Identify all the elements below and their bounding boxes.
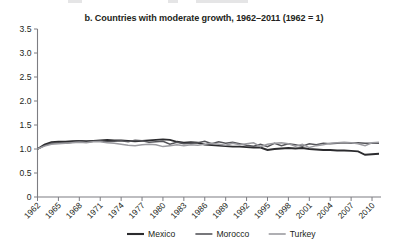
legend-label-mexico: Mexico xyxy=(148,229,175,239)
x-axis-tick-label: 1986 xyxy=(189,200,209,220)
x-axis-tick-label: 2004 xyxy=(315,200,335,220)
chart-plot-area: 00.51.01.52.02.53.03.5 19621965196819711… xyxy=(0,0,408,250)
series-lines xyxy=(38,139,380,154)
x-axis: 1962196519681971197419771980198319861989… xyxy=(22,197,381,221)
x-axis-tick-label: 2007 xyxy=(335,200,355,220)
x-axis-tick-label: 1968 xyxy=(64,200,84,220)
x-axis-tick-label: 2001 xyxy=(294,200,314,220)
chart-figure: b. Countries with moderate growth, 1962–… xyxy=(0,0,408,250)
y-axis-tick-label: 0.5 xyxy=(20,168,32,178)
y-axis-tick-label: 3.0 xyxy=(20,48,32,58)
y-axis-tick-label: 2.0 xyxy=(20,96,32,106)
x-axis-tick-label: 1989 xyxy=(210,200,230,220)
y-axis-tick-label: 1.5 xyxy=(20,120,32,130)
x-axis-tick-label: 1980 xyxy=(147,200,167,220)
x-axis-tick-label: 1977 xyxy=(126,200,146,220)
legend-label-morocco: Morocco xyxy=(216,229,249,239)
chart-legend: MexicoMoroccoTurkey xyxy=(127,229,316,239)
y-axis-tick-label: 1.0 xyxy=(20,144,32,154)
x-axis-tick-label: 1995 xyxy=(252,200,272,220)
y-axis-tick-label: 0 xyxy=(27,192,32,202)
x-axis-tick-label: 1992 xyxy=(231,200,251,220)
x-axis-tick-label: 1998 xyxy=(273,200,293,220)
x-axis-tick-label: 1965 xyxy=(43,200,63,220)
y-axis-tick-label: 3.5 xyxy=(20,24,32,34)
y-axis: 00.51.01.52.02.53.03.5 xyxy=(20,24,38,202)
x-axis-tick-label: 2010 xyxy=(356,200,376,220)
x-axis-tick-label: 1962 xyxy=(22,200,42,220)
y-axis-tick-label: 2.5 xyxy=(20,72,32,82)
legend-label-turkey: Turkey xyxy=(290,229,317,239)
x-axis-tick-label: 1971 xyxy=(85,200,105,220)
x-axis-tick-label: 1983 xyxy=(168,200,188,220)
x-axis-tick-label: 1974 xyxy=(105,200,125,220)
